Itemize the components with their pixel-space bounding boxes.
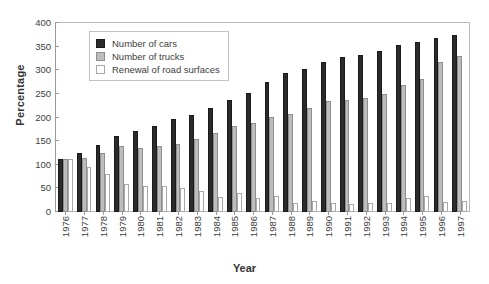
- x-tick-mark: [347, 212, 348, 215]
- x-tick-mark: [103, 212, 104, 215]
- x-tick-mark: [272, 212, 273, 215]
- x-tick: 1984: [207, 214, 225, 260]
- bar-renewal-1983: [199, 191, 204, 212]
- x-tick-label: 1983: [191, 216, 202, 237]
- bar-renewal-1991: [349, 204, 354, 212]
- x-tick-mark: [159, 212, 160, 215]
- year-group: [340, 23, 355, 212]
- bar-renewal-1976: [68, 159, 73, 212]
- x-tick: 1989: [300, 214, 318, 260]
- x-tick-mark: [309, 212, 310, 215]
- x-tick: 1990: [319, 214, 337, 260]
- trucks-swatch-icon: [96, 52, 105, 61]
- bar-cars-1987: [265, 82, 270, 212]
- y-tick-mark: [55, 69, 59, 70]
- bar-renewal-1981: [162, 186, 167, 212]
- year-group: [396, 23, 411, 212]
- bar-cars-1979: [114, 136, 119, 212]
- x-tick: 1986: [244, 214, 262, 260]
- bar-trucks-1990: [326, 101, 331, 212]
- bar-cars-1976: [58, 159, 63, 212]
- bar-renewal-1982: [180, 188, 185, 212]
- legend-item-trucks: Number of trucks: [96, 50, 220, 62]
- bar-cars-1986: [246, 93, 251, 212]
- legend-label-trucks: Number of trucks: [112, 51, 184, 62]
- legend-label-cars: Number of cars: [112, 38, 177, 49]
- year-group: [452, 23, 467, 212]
- bar-cars-1978: [96, 145, 101, 212]
- legend-item-cars: Number of cars: [96, 37, 220, 49]
- bar-renewal-1992: [368, 203, 373, 212]
- x-tick-mark: [65, 212, 66, 215]
- x-tick: 1987: [263, 214, 281, 260]
- year-group: [434, 23, 449, 212]
- bar-trucks-1995: [420, 79, 425, 212]
- bar-trucks-1980: [138, 148, 143, 212]
- x-tick-mark: [328, 212, 329, 215]
- x-tick-label: 1984: [210, 216, 221, 237]
- year-group: [265, 23, 280, 212]
- bar-cars-1977: [77, 153, 82, 212]
- x-tick: 1993: [376, 214, 394, 260]
- x-tick: 1981: [150, 214, 168, 260]
- year-group: [358, 23, 373, 212]
- x-tick-label: 1990: [323, 216, 334, 237]
- legend-item-renewal: Renewal of road surfaces: [96, 63, 220, 75]
- bar-cars-1994: [396, 45, 401, 212]
- x-tick-label: 1991: [341, 216, 352, 237]
- x-tick-label: 1996: [435, 216, 446, 237]
- bar-trucks-1986: [251, 123, 256, 212]
- y-tick-mark: [55, 93, 59, 94]
- bar-trucks-1988: [288, 114, 293, 212]
- x-tick-label: 1989: [304, 216, 315, 237]
- x-tick-mark: [291, 212, 292, 215]
- year-group: [321, 23, 336, 212]
- x-tick-label: 1986: [248, 216, 259, 237]
- x-tick-label: 1997: [454, 216, 465, 237]
- x-tick-mark: [140, 212, 141, 215]
- x-tick-label: 1976: [60, 216, 71, 237]
- bar-renewal-1979: [124, 184, 129, 212]
- year-group: [58, 23, 73, 212]
- x-tick-label: 1985: [229, 216, 240, 237]
- bar-trucks-1976: [63, 159, 68, 212]
- bar-trucks-1977: [82, 158, 87, 212]
- renewal-swatch-icon: [96, 65, 105, 74]
- x-tick: 1978: [94, 214, 112, 260]
- bar-renewal-1986: [256, 198, 261, 212]
- bar-trucks-1989: [307, 108, 312, 212]
- bar-trucks-1987: [269, 117, 274, 212]
- y-tick-mark: [55, 140, 59, 141]
- x-tick-mark: [122, 212, 123, 215]
- y-tick-label: 50: [21, 182, 51, 193]
- x-tick-mark: [253, 212, 254, 215]
- bar-trucks-1994: [401, 85, 406, 212]
- y-tick-mark: [55, 22, 59, 23]
- x-tick: 1994: [394, 214, 412, 260]
- bar-cars-1982: [171, 119, 176, 212]
- bar-trucks-1997: [457, 56, 462, 212]
- y-tick-label: 300: [21, 64, 51, 75]
- bar-renewal-1985: [237, 193, 242, 212]
- year-group: [246, 23, 261, 212]
- x-tick-label: 1988: [285, 216, 296, 237]
- bar-trucks-1993: [382, 94, 387, 212]
- x-tick: 1985: [225, 214, 243, 260]
- bar-renewal-1988: [293, 203, 298, 212]
- x-tick-mark: [178, 212, 179, 215]
- x-axis-tick-labels: 1976197719781979198019811982198319841985…: [56, 214, 469, 260]
- bar-renewal-1997: [462, 201, 467, 212]
- x-tick: 1979: [113, 214, 131, 260]
- x-tick: 1995: [413, 214, 431, 260]
- x-tick-label: 1994: [398, 216, 409, 237]
- bar-renewal-1977: [87, 167, 92, 212]
- x-tick-label: 1979: [116, 216, 127, 237]
- x-tick-label: 1977: [79, 216, 90, 237]
- bar-renewal-1996: [443, 202, 448, 212]
- bar-cars-1993: [377, 51, 382, 212]
- x-tick-label: 1981: [154, 216, 165, 237]
- x-tick: 1991: [338, 214, 356, 260]
- x-tick-label: 1978: [97, 216, 108, 237]
- year-group: [377, 23, 392, 212]
- bar-cars-1981: [152, 126, 157, 212]
